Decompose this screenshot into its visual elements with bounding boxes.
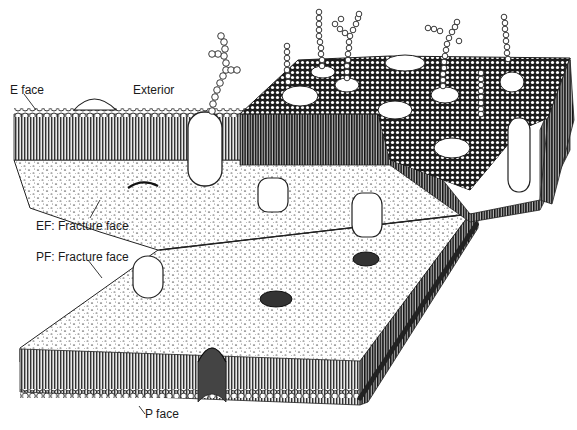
ef-particle <box>258 178 288 212</box>
spanning-protein <box>508 118 530 192</box>
label-ef-fracture-face: EF: Fracture face <box>36 220 129 232</box>
ef-particle <box>352 193 382 237</box>
surface-protein <box>378 101 412 119</box>
pf-pit <box>353 252 379 266</box>
label-p-face: P face <box>145 408 179 420</box>
protein-notch <box>198 348 226 402</box>
membrane-diagram: E face Exterior EF: Fracture face PF: Fr… <box>0 0 577 430</box>
glycan-chain <box>209 33 241 115</box>
membrane-illustration <box>0 0 577 430</box>
transmembrane-protein <box>188 112 222 186</box>
label-e-face: E face <box>10 84 44 96</box>
label-pf-fracture-face: PF: Fracture face <box>36 251 129 263</box>
label-exterior: Exterior <box>133 84 174 96</box>
glycan-chain <box>478 70 484 117</box>
surface-protein <box>434 138 470 158</box>
pf-slab <box>20 214 478 405</box>
p-face-heads <box>20 389 360 398</box>
glycan-chain <box>501 14 511 62</box>
surface-protein <box>282 86 318 106</box>
surface-protein <box>431 87 459 103</box>
surface-protein <box>500 72 524 92</box>
pf-pit <box>260 291 292 307</box>
surface-protein <box>385 55 425 71</box>
pf-particle <box>133 256 163 298</box>
e-face-protein <box>74 99 116 110</box>
